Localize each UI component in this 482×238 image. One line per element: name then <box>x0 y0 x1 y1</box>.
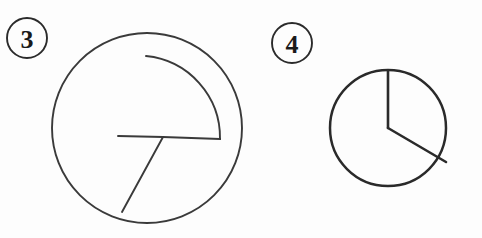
figure-3-wedge-arm <box>122 137 163 212</box>
figure-3-horizontal-radius <box>118 136 220 139</box>
figure-3-circle <box>52 33 242 223</box>
badge-4: 4 <box>272 23 312 63</box>
figure-4-radius-lower-right <box>388 128 446 162</box>
figure-3-group: 3 <box>7 18 242 223</box>
diagram-canvas: 3 4 <box>0 0 482 238</box>
badge-3-label: 3 <box>21 25 34 54</box>
badge-3: 3 <box>7 18 47 58</box>
badge-4-label: 4 <box>286 30 299 59</box>
figure-4-group: 4 <box>272 23 446 186</box>
figure-3-sector-arc <box>146 56 220 139</box>
